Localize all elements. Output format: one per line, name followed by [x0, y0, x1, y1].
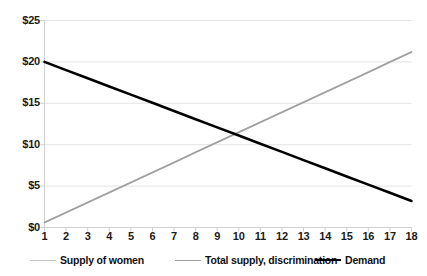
data-series	[45, 52, 412, 223]
legend-item-1[interactable]: Total supply, discrimination	[175, 250, 337, 270]
legend-label: Supply of women	[60, 254, 144, 266]
plot-area	[0, 0, 427, 248]
x-axis-tick-label: 18	[400, 230, 424, 243]
x-axis-tick-label: 8	[184, 230, 208, 243]
chart-legend: Supply of womenTotal supply, discriminat…	[0, 250, 427, 276]
x-axis-tick-label: 6	[140, 230, 164, 243]
x-axis-labels: 123456789101112131415161718	[0, 230, 427, 248]
x-axis-tick-label: 5	[119, 230, 143, 243]
x-axis-tick-label: 16	[356, 230, 380, 243]
x-axis-tick-label: 4	[97, 230, 121, 243]
x-axis-tick-label: 12	[270, 230, 294, 243]
y-axis-tick-label: $25	[2, 15, 40, 26]
plot-svg	[0, 0, 427, 248]
chart-container: $0$5$10$15$20$25 12345678910111213141516…	[0, 0, 427, 276]
x-axis-tick-label: 9	[205, 230, 229, 243]
axis-ticks	[41, 21, 412, 232]
x-axis-tick-label: 2	[54, 230, 78, 243]
x-axis-tick-label: 1	[33, 230, 57, 243]
x-axis-tick-label: 3	[76, 230, 100, 243]
x-axis-tick-label: 17	[378, 230, 402, 243]
x-axis-tick-label: 13	[292, 230, 316, 243]
legend-swatch-line-icon	[315, 259, 341, 261]
x-axis-tick-label: 14	[313, 230, 337, 243]
y-axis-tick-label: $15	[2, 97, 40, 108]
x-axis-tick-label: 11	[248, 230, 272, 243]
y-axis-tick-label: $20	[2, 56, 40, 67]
series-line-1	[45, 52, 412, 223]
x-axis-tick-label: 15	[335, 230, 359, 243]
legend-swatch-line-icon	[175, 260, 201, 261]
y-axis-tick-label: $5	[2, 180, 40, 191]
x-axis-tick-label: 7	[162, 230, 186, 243]
legend-label: Demand	[345, 254, 385, 266]
legend-swatch-line-icon	[30, 260, 56, 261]
series-line-2	[45, 62, 412, 201]
y-axis-tick-label: $10	[2, 139, 40, 150]
legend-item-0[interactable]: Supply of women	[30, 250, 144, 270]
legend-item-2[interactable]: Demand	[315, 250, 385, 270]
y-axis-labels: $0$5$10$15$20$25	[0, 0, 40, 248]
x-axis-tick-label: 10	[227, 230, 251, 243]
